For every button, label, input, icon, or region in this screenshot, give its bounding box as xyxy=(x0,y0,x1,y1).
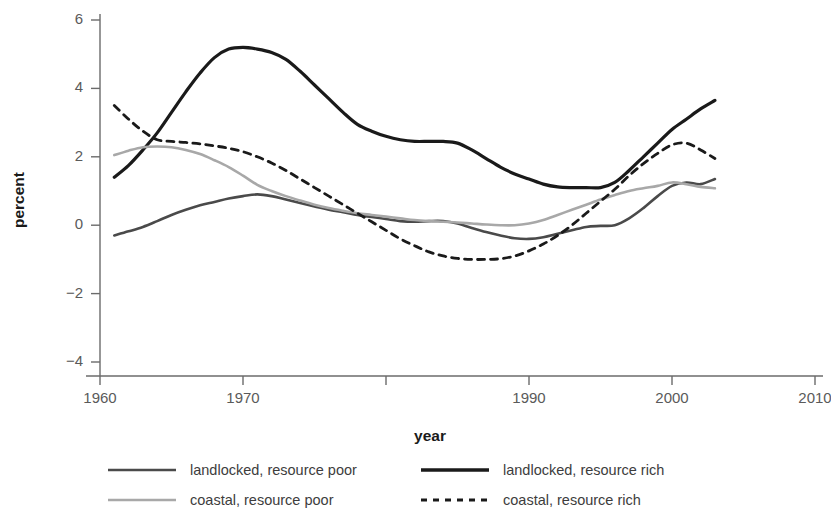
y-tick-label: 4 xyxy=(75,78,83,95)
chart-legend: landlocked, resource poorlandlocked, res… xyxy=(108,462,664,508)
chart-canvas: −4−20246 19601970199020002010 percent ye… xyxy=(0,0,831,525)
y-tick-label: −2 xyxy=(66,284,83,301)
series-line xyxy=(114,179,715,239)
x-tick-label: 1960 xyxy=(83,389,116,406)
series-group xyxy=(114,47,715,259)
x-axis-title: year xyxy=(414,427,446,444)
legend-label: landlocked, resource rich xyxy=(503,462,664,478)
series-line xyxy=(114,106,715,260)
x-tick-label: 2000 xyxy=(655,389,688,406)
y-tick-label: 0 xyxy=(75,215,83,232)
x-tick-label: 2010 xyxy=(798,389,831,406)
x-tick-group: 19601970199020002010 xyxy=(83,376,831,406)
legend-label: coastal, resource poor xyxy=(190,492,334,508)
y-tick-label: −4 xyxy=(66,352,83,369)
legend-label: landlocked, resource poor xyxy=(190,462,357,478)
y-axis-title: percent xyxy=(10,172,27,228)
y-tick-label: 2 xyxy=(75,147,83,164)
x-tick-label: 1990 xyxy=(512,389,545,406)
line-chart: −4−20246 19601970199020002010 percent ye… xyxy=(0,0,831,525)
y-tick-label: 6 xyxy=(75,10,83,27)
series-line xyxy=(114,47,715,188)
y-axis: −4−20246 xyxy=(66,10,100,376)
x-axis: 19601970199020002010 xyxy=(83,376,831,406)
legend-label: coastal, resource rich xyxy=(503,492,641,508)
x-tick-label: 1970 xyxy=(226,389,259,406)
series-line xyxy=(114,147,715,226)
y-tick-group: −4−20246 xyxy=(66,10,100,369)
